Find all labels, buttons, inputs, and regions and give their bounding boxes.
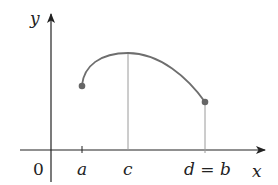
y-axis-label: y (29, 8, 40, 28)
x-axis-label: x (252, 161, 262, 181)
tick-label-a: a (77, 159, 87, 179)
point-a (79, 83, 86, 90)
point-b (202, 99, 209, 106)
function-curve (82, 53, 205, 102)
origin-label: 0 (33, 159, 44, 179)
tick-label-c: c (123, 159, 133, 179)
tick-label-d-equals-b: d = b (184, 159, 231, 179)
function-graph: y x 0 a c d = b (0, 0, 278, 185)
